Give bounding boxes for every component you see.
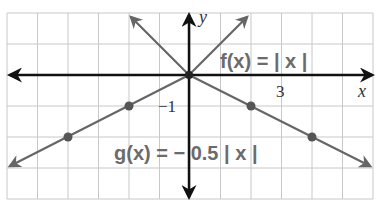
g-equation-label: g(x) = − 0.5 | x |: [114, 142, 257, 164]
tick-label-yneg1: −1: [158, 97, 176, 116]
x-axis-label: x: [357, 81, 366, 101]
data-point: [308, 133, 317, 142]
y-axis-label: y: [197, 7, 207, 27]
origin-point: [185, 71, 193, 79]
data-point: [125, 102, 134, 111]
data-point: [64, 133, 73, 142]
f-equation-label: f(x) = | x |: [220, 50, 307, 72]
data-point: [247, 102, 256, 111]
tick-label-x3: 3: [276, 82, 285, 101]
coordinate-graph: y x 3 −1 f(x) = | x | g(x) = − 0.5 | x |: [0, 0, 382, 207]
